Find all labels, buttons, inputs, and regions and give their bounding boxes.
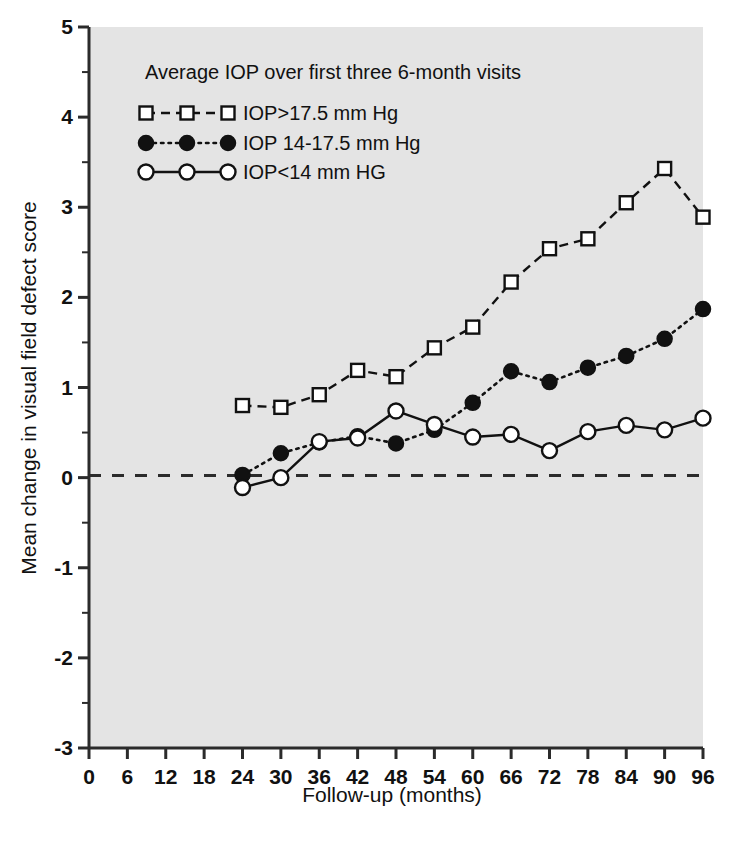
legend-label: IOP<14 mm HG [243, 161, 386, 183]
data-point [657, 422, 672, 437]
x-tick-label: 96 [691, 765, 714, 788]
data-point [581, 232, 594, 245]
data-point [542, 375, 557, 390]
y-tick-label: -1 [54, 556, 73, 579]
data-point [542, 443, 557, 458]
x-tick-label: 90 [653, 765, 676, 788]
data-point [543, 242, 556, 255]
x-axis-title: Follow-up (months) [302, 783, 482, 806]
x-tick-label: 6 [122, 765, 134, 788]
y-tick-label: -3 [54, 736, 73, 759]
data-point [619, 348, 634, 363]
chart-figure: -3-2-1012345 061218243036424854606672788… [0, 0, 735, 851]
x-tick-label: 72 [538, 765, 561, 788]
data-point [504, 427, 519, 442]
data-point [312, 434, 327, 449]
legend-marker [222, 107, 235, 120]
data-point [580, 360, 595, 375]
data-point [697, 211, 710, 224]
legend-label: IOP>17.5 mm Hg [243, 102, 398, 124]
legend-marker [181, 107, 194, 120]
data-point [273, 446, 288, 461]
data-point [504, 364, 519, 379]
x-axis-ticks [89, 748, 703, 759]
x-tick-label: 24 [231, 765, 255, 788]
data-point [696, 302, 711, 317]
data-point [466, 321, 479, 334]
data-point [619, 418, 634, 433]
x-tick-label: 66 [499, 765, 522, 788]
data-point [236, 399, 249, 412]
data-point [389, 403, 404, 418]
y-tick-label: 1 [61, 376, 73, 399]
x-tick-label: 78 [576, 765, 600, 788]
y-axis-tick-labels: -3-2-1012345 [54, 15, 73, 759]
y-tick-label: 5 [61, 15, 73, 38]
y-tick-label: 3 [61, 195, 73, 218]
data-point [428, 341, 441, 354]
data-point [505, 276, 518, 289]
data-point [465, 430, 480, 445]
y-axis-ticks [78, 27, 89, 748]
x-tick-label: 0 [83, 765, 95, 788]
y-axis-title: Mean change in visual field defect score [17, 201, 40, 575]
data-point [274, 401, 287, 414]
data-point [313, 388, 326, 401]
legend-marker [140, 107, 153, 120]
data-point [696, 411, 711, 426]
y-tick-label: 0 [61, 466, 73, 489]
data-point [273, 470, 288, 485]
y-tick-label: -2 [54, 646, 73, 669]
legend-marker [221, 136, 236, 151]
data-point [350, 430, 365, 445]
data-point [657, 331, 672, 346]
x-tick-label: 18 [192, 765, 216, 788]
legend-marker [139, 165, 154, 180]
legend-marker [180, 136, 195, 151]
data-point [389, 436, 404, 451]
x-tick-label: 12 [154, 765, 177, 788]
y-tick-label: 4 [61, 105, 73, 128]
data-point [235, 480, 250, 495]
x-tick-label: 30 [269, 765, 292, 788]
data-point [390, 370, 403, 383]
data-point [465, 395, 480, 410]
legend-title: Average IOP over first three 6-month vis… [145, 61, 521, 83]
data-point [580, 424, 595, 439]
y-tick-label: 2 [61, 285, 73, 308]
visual-field-defect-line-chart: -3-2-1012345 061218243036424854606672788… [0, 0, 735, 851]
data-point [427, 417, 442, 432]
legend-label: IOP 14-17.5 mm Hg [243, 132, 420, 154]
legend-entries: IOP>17.5 mm HgIOP 14-17.5 mm HgIOP<14 mm… [139, 102, 421, 183]
legend-marker [180, 165, 195, 180]
data-point [620, 196, 633, 209]
legend-marker [139, 136, 154, 151]
legend-marker [221, 165, 236, 180]
data-point [658, 162, 671, 175]
x-tick-label: 84 [615, 765, 639, 788]
data-point [351, 364, 364, 377]
